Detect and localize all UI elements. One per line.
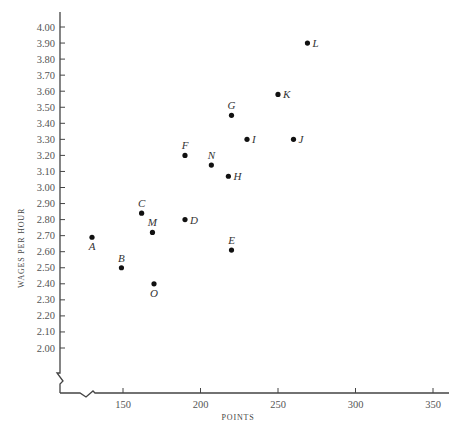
y-tick-label: 3.60 (37, 86, 55, 97)
data-point-m: M (147, 216, 158, 235)
data-point-f: F (181, 139, 189, 158)
point-marker-icon (291, 137, 296, 142)
point-label: B (118, 252, 125, 264)
point-marker-icon (139, 211, 144, 216)
point-label: E (227, 234, 235, 246)
y-tick-label: 2.90 (37, 198, 55, 209)
point-marker-icon (275, 92, 280, 97)
y-tick-label: 2.20 (37, 310, 55, 321)
point-marker-icon (182, 217, 187, 222)
point-marker-icon (229, 247, 234, 252)
y-tick-label: 2.50 (37, 262, 55, 273)
data-point-i: I (244, 133, 257, 145)
x-axis-line (60, 391, 449, 397)
y-tick-label: 3.10 (37, 166, 55, 177)
point-label: D (189, 214, 198, 226)
point-label: J (299, 133, 305, 145)
point-label: M (147, 216, 158, 228)
point-marker-icon (244, 137, 249, 142)
y-tick-label: 3.30 (37, 134, 55, 145)
y-tick-label: 3.90 (37, 38, 55, 49)
point-label: K (282, 88, 291, 100)
data-point-g: G (228, 99, 236, 118)
point-label: H (232, 170, 242, 182)
y-tick-label: 2.60 (37, 246, 55, 257)
x-tick-label: 300 (348, 399, 364, 410)
scatter-chart: 4.003.903.803.703.603.503.403.303.203.10… (0, 0, 466, 434)
point-marker-icon (182, 153, 187, 158)
y-tick-label: 3.00 (37, 182, 55, 193)
y-tick-label: 3.50 (37, 102, 55, 113)
x-tick-label: 200 (193, 399, 209, 410)
point-marker-icon (119, 265, 124, 270)
data-point-b: B (118, 252, 125, 271)
x-axis-title: POINTS (222, 413, 255, 422)
data-point-o: O (150, 281, 158, 299)
point-marker-icon (229, 113, 234, 118)
y-tick-label: 4.00 (37, 22, 55, 33)
y-tick-label: 2.10 (37, 326, 55, 337)
data-point-k: K (275, 88, 291, 100)
point-label: C (138, 197, 146, 209)
data-point-a: A (88, 235, 96, 253)
x-tick-label: 350 (425, 399, 441, 410)
data-point-c: C (138, 197, 146, 216)
point-label: N (207, 149, 216, 161)
point-label: F (181, 139, 189, 151)
data-point-n: N (207, 149, 216, 168)
point-marker-icon (305, 40, 310, 45)
y-tick-label: 2.00 (37, 343, 55, 354)
y-axis-title: WAGES PER HOUR (17, 208, 26, 288)
data-points: ABCDEFGHIJKLMNO (88, 37, 319, 299)
y-tick-label: 3.40 (37, 118, 55, 129)
x-tick-label: 150 (115, 399, 131, 410)
y-axis-ticks: 4.003.903.803.703.603.503.403.303.203.10… (37, 22, 65, 354)
point-label: O (150, 287, 158, 299)
x-axis-ticks: 150200250300350 (115, 388, 441, 410)
data-point-l: L (305, 37, 319, 49)
y-tick-label: 3.70 (37, 70, 55, 81)
data-point-e: E (227, 234, 235, 253)
point-marker-icon (209, 162, 214, 167)
y-tick-label: 3.80 (37, 54, 55, 65)
data-point-h: H (226, 170, 243, 182)
x-tick-label: 250 (270, 399, 286, 410)
point-marker-icon (89, 235, 94, 240)
data-point-d: D (182, 214, 198, 226)
y-tick-label: 3.20 (37, 150, 55, 161)
point-marker-icon (151, 281, 156, 286)
point-marker-icon (226, 174, 231, 179)
y-tick-label: 2.40 (37, 278, 55, 289)
y-axis-line (57, 12, 63, 393)
y-tick-label: 2.70 (37, 230, 55, 241)
point-marker-icon (150, 230, 155, 235)
data-point-j: J (291, 133, 305, 145)
point-label: L (311, 37, 318, 49)
y-tick-label: 2.30 (37, 294, 55, 305)
y-tick-label: 2.80 (37, 214, 55, 225)
point-label: G (228, 99, 236, 111)
point-label: A (88, 240, 96, 252)
point-label: I (251, 133, 257, 145)
